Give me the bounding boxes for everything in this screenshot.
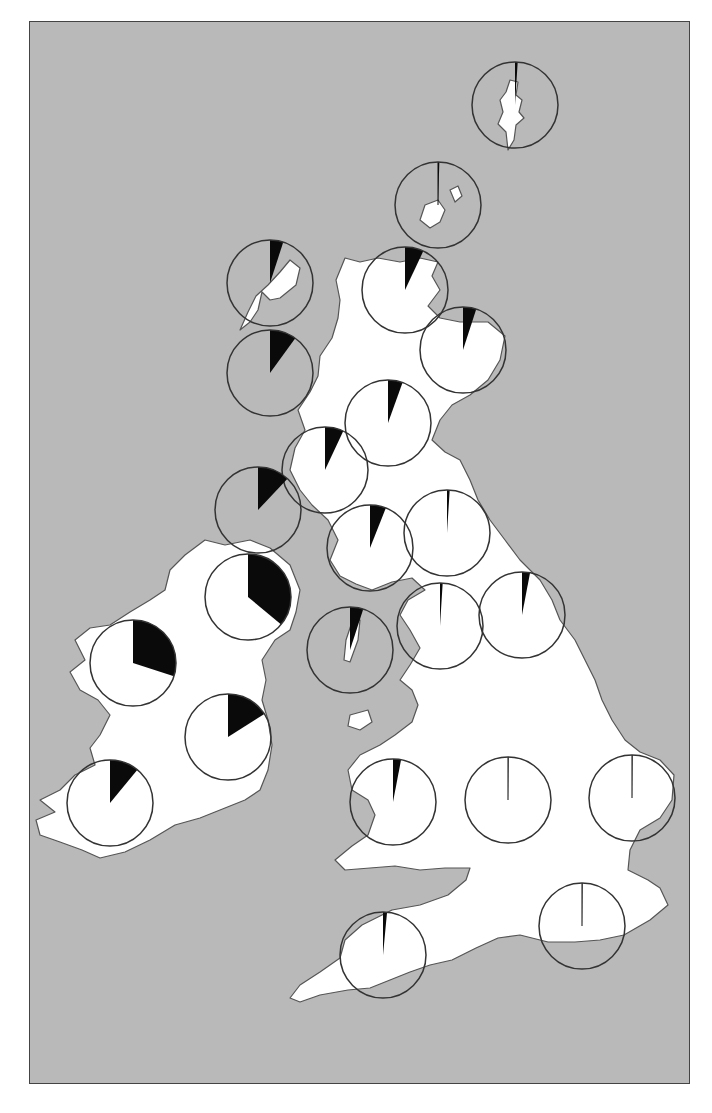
pie-chart xyxy=(227,330,313,416)
land-anglesey xyxy=(348,710,372,730)
british-isles-map xyxy=(0,0,712,1113)
pie-chart xyxy=(307,607,393,693)
pie-chart xyxy=(395,162,481,248)
pie-chart xyxy=(227,240,313,326)
pie-wedge xyxy=(258,467,287,510)
land-masses xyxy=(36,80,674,1002)
land-orkney xyxy=(420,186,462,228)
pie-chart xyxy=(215,467,301,553)
land-shetland xyxy=(498,80,524,150)
